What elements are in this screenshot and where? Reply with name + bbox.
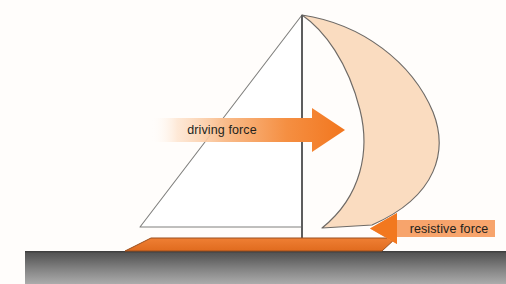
hull [125,238,396,251]
driving-force-label: driving force [187,123,256,137]
ground [25,251,506,284]
resistive-force-label: resistive force [410,222,489,236]
diagram-canvas: driving force resistive force [0,0,506,284]
sailboat-force-diagram: driving force resistive force [0,0,506,284]
